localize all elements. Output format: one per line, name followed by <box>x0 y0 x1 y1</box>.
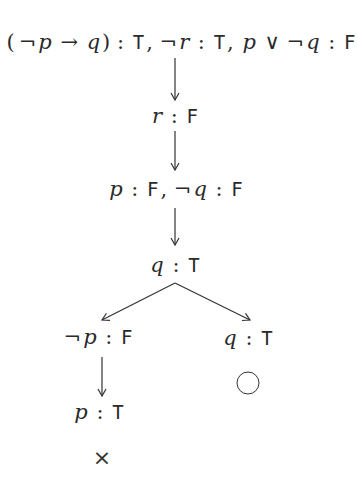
truth-value: F <box>121 326 132 348</box>
operator: ¬ <box>17 30 39 54</box>
operator: ( <box>4 30 16 54</box>
separator: : <box>237 326 261 350</box>
operator: , ¬ <box>144 30 179 54</box>
operator: ∨ ¬ <box>256 30 306 54</box>
operator: : <box>189 30 213 54</box>
variable: q <box>87 30 100 54</box>
truth-value-2: F <box>231 178 242 200</box>
separator-2: : <box>207 177 231 201</box>
truth-value: T <box>214 31 225 53</box>
tableau-node-left-child-p-true: p : T <box>74 400 123 424</box>
variable: q <box>306 30 319 54</box>
tableau-node-left-notp-false: ¬p : F <box>62 325 133 349</box>
variable: q <box>223 326 236 350</box>
tableau-root-node: (¬p → q) : T, ¬r : T, p ∨ ¬q : F <box>4 30 355 54</box>
closed-branch-cross-icon: × <box>93 447 111 469</box>
tableau-edges <box>0 0 358 482</box>
operator: : <box>320 30 344 54</box>
variable: p <box>83 325 96 349</box>
operator: ) : <box>100 30 133 54</box>
variable: p <box>242 30 255 54</box>
tableau-node-q-true: q : T <box>150 253 199 277</box>
edge-n3-to-right <box>175 283 250 320</box>
operator: , <box>225 30 242 54</box>
negation: ¬ <box>62 325 84 349</box>
open-branch-circle-icon <box>237 372 260 395</box>
variable-1: p <box>109 177 122 201</box>
tableau-node-p-false-notq-false: p : F, ¬q : F <box>109 177 243 201</box>
variable: r <box>179 30 189 54</box>
separator: : <box>97 325 121 349</box>
separator: : <box>88 400 112 424</box>
truth-value: T <box>188 254 199 276</box>
tableau-node-r-false: r : F <box>152 104 198 128</box>
variable-2: q <box>193 177 206 201</box>
truth-value-1: F <box>147 178 158 200</box>
variable: p <box>74 400 87 424</box>
variable: q <box>150 253 163 277</box>
truth-value: T <box>112 401 123 423</box>
truth-value: F <box>187 105 198 127</box>
truth-value: T <box>133 31 144 53</box>
variable: r <box>152 104 162 128</box>
tableau-node-right-q-true: q : T <box>223 326 272 350</box>
variable: p <box>38 30 51 54</box>
edge-n3-to-left <box>102 283 175 320</box>
comma-negation: , ¬ <box>159 177 194 201</box>
separator-1: : <box>123 177 147 201</box>
truth-value: F <box>344 31 355 53</box>
separator: : <box>164 253 188 277</box>
truth-value: T <box>261 327 272 349</box>
separator: : <box>162 104 186 128</box>
operator: → <box>52 30 87 54</box>
